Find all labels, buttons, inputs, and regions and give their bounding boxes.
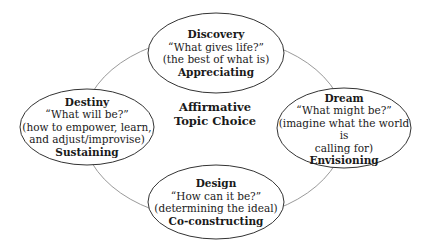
design-verb: Co-constructing — [169, 215, 264, 228]
center-topic-line1: Affirmative — [160, 100, 270, 114]
design-description: (determining the ideal) — [154, 202, 277, 215]
discovery-verb: Appreciating — [178, 66, 254, 79]
destiny-verb: Sustaining — [55, 146, 118, 159]
dream-node: Dream “What might be?” (imagine what the… — [277, 96, 411, 162]
discovery-title: Discovery — [188, 28, 245, 41]
dream-verb: Envisioning — [309, 154, 378, 167]
center-topic: Affirmative Topic Choice — [160, 100, 270, 128]
discovery-question: “What gives life?” — [168, 41, 264, 54]
discovery-node: Discovery “What gives life?” (the best o… — [148, 25, 284, 81]
dream-description-line2: calling for) — [315, 142, 373, 155]
destiny-node: Destiny “What will be?” (how to empower,… — [20, 94, 154, 160]
discovery-description: (the best of what is) — [163, 53, 269, 66]
design-title: Design — [196, 177, 237, 190]
dream-question: “What might be?” — [296, 104, 391, 117]
center-topic-line2: Topic Choice — [160, 114, 270, 128]
dream-description-line1: (imagine what the world is — [277, 117, 411, 142]
destiny-description-line2: and adjust/improvise) — [29, 133, 145, 146]
dream-title: Dream — [324, 92, 363, 105]
destiny-title: Destiny — [65, 96, 109, 109]
destiny-question: “What will be?” — [45, 108, 128, 121]
destiny-description-line1: (how to empower, learn, — [22, 121, 151, 134]
design-question: “How can it be?” — [171, 190, 261, 203]
design-node: Design “How can it be?” (determining the… — [148, 174, 284, 230]
